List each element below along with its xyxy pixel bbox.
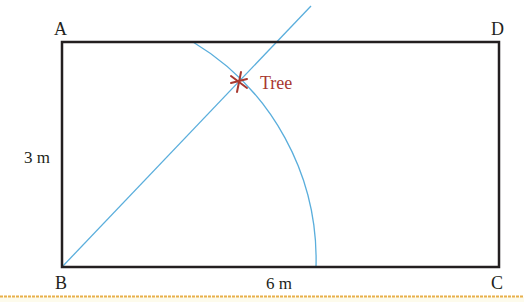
diagram-canvas: Tree A D B C 3 m 6 m [0,0,524,302]
vertex-label-d: D [491,19,504,39]
diagram-svg: Tree A D B C 3 m 6 m [0,0,524,302]
arc-line [193,42,316,267]
vertex-label-a: A [54,19,67,39]
vertex-label-c: C [491,273,503,293]
tree-label: Tree [260,73,292,93]
vertex-label-b: B [55,273,67,293]
dimension-label-ab: 3 m [24,148,50,167]
footer-strip [0,297,524,302]
diagonal-line [62,6,311,267]
dimension-label-bc: 6 m [266,274,292,293]
